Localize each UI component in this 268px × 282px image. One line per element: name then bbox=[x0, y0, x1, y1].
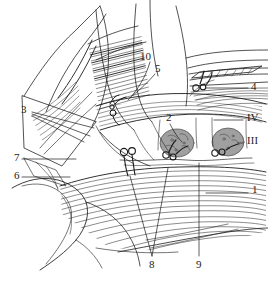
label-10: 10 bbox=[140, 51, 151, 62]
label-6: 6 bbox=[14, 170, 20, 181]
lymph-node-shaded-right bbox=[212, 128, 244, 156]
label-iii: III bbox=[247, 135, 258, 146]
label-8: 8 bbox=[149, 259, 155, 270]
label-7: 7 bbox=[14, 152, 20, 163]
label-4: 4 bbox=[251, 81, 257, 92]
label-1: 1 bbox=[252, 184, 258, 195]
label-3: 3 bbox=[21, 104, 27, 115]
anatomy-drawing bbox=[0, 0, 268, 282]
label-2: 2 bbox=[166, 112, 172, 123]
label-9: 9 bbox=[196, 259, 202, 270]
label-5: 5 bbox=[155, 63, 161, 74]
anatomy-figure: 1 2 3 4 5 6 7 8 9 10 III IV bbox=[0, 0, 268, 282]
label-iv: IV bbox=[247, 112, 259, 123]
